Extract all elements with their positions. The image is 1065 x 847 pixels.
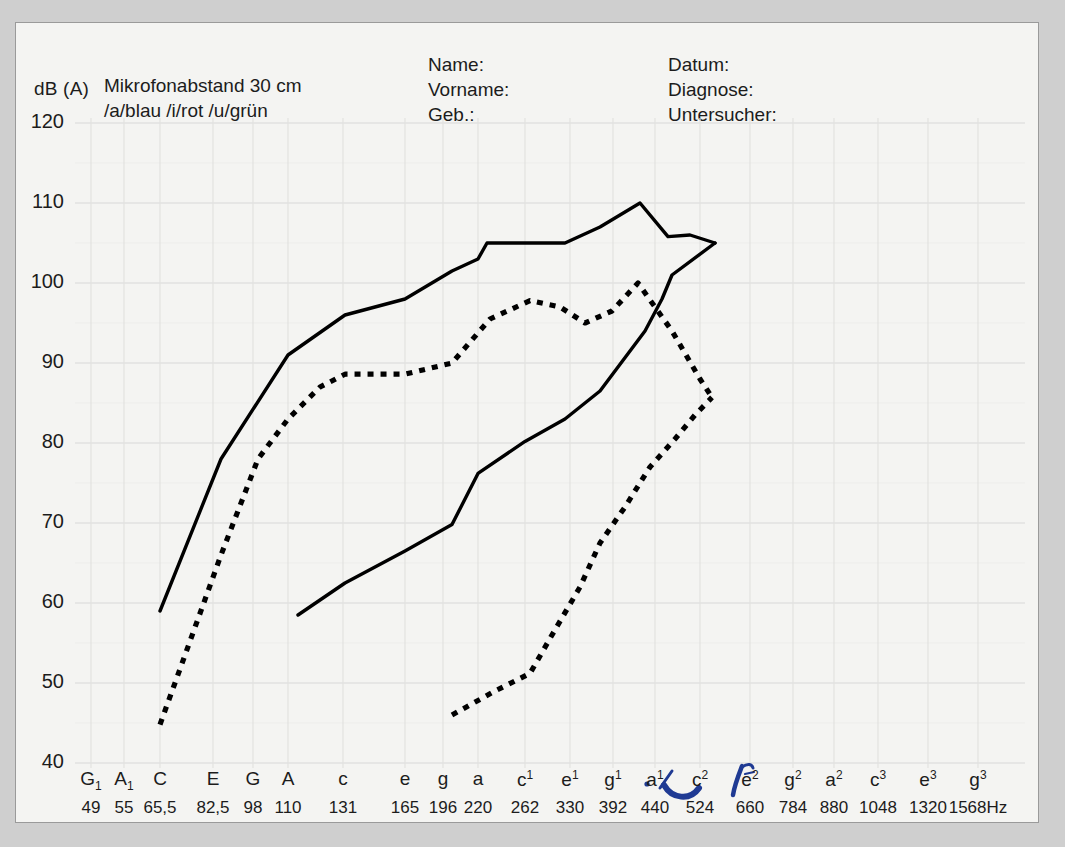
patient-fields-right: Datum: Diagnose: Untersucher: (668, 52, 777, 127)
y-tick-70: 70 (18, 510, 64, 533)
chart-legend: Mikrofonabstand 30 cm /a/blau /i/rot /u/… (104, 73, 302, 123)
field-untersucher[interactable]: Untersucher: (668, 102, 777, 127)
patient-fields-left: Name: Vorname: Geb.: (428, 52, 509, 127)
x-tick-freq-20: 1568Hz (948, 798, 1008, 818)
y-tick-40: 40 (18, 750, 64, 773)
x-tick-freq-2: 65,5 (130, 798, 190, 818)
field-geb[interactable]: Geb.: (428, 102, 509, 127)
field-name[interactable]: Name: (428, 52, 509, 77)
x-tick-freq-5: 110 (258, 798, 318, 818)
y-tick-110: 110 (18, 190, 64, 213)
y-tick-50: 50 (18, 670, 64, 693)
y-tick-80: 80 (18, 430, 64, 453)
y-tick-60: 60 (18, 590, 64, 613)
x-tick-note-6: c (313, 768, 373, 790)
x-tick-note-5: A (258, 768, 318, 790)
field-vorname[interactable]: Vorname: (428, 77, 509, 102)
screenshot-page: dB (A) Mikrofonabstand 30 cm /a/blau /i/… (0, 0, 1065, 847)
y-tick-90: 90 (18, 350, 64, 373)
y-tick-120: 120 (18, 110, 64, 133)
chart-sheet: dB (A) Mikrofonabstand 30 cm /a/blau /i/… (15, 22, 1039, 823)
y-tick-100: 100 (18, 270, 64, 293)
field-diagnose[interactable]: Diagnose: (668, 77, 777, 102)
field-datum[interactable]: Datum: (668, 52, 777, 77)
x-tick-freq-6: 131 (313, 798, 373, 818)
y-axis-unit-label: dB (A) (34, 78, 89, 100)
x-tick-note-2: C (130, 768, 190, 790)
x-tick-note-20: g3 (948, 768, 1008, 791)
legend-line-vowels: /a/blau /i/rot /u/grün (104, 98, 302, 123)
legend-line-microphone: Mikrofonabstand 30 cm (104, 73, 302, 98)
